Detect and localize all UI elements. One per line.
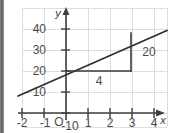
graph-figure: 40 30 20 10 -10 -2 -1 1 2 3 4 O y x 4 20: [0, 0, 169, 133]
x-axis-label: x: [159, 114, 166, 126]
x-tick-label-3: 3: [129, 116, 136, 130]
x-tick-label-minus-1: -1: [40, 116, 51, 130]
run-annotation-label: 4: [96, 74, 103, 88]
origin-label: O: [54, 115, 63, 129]
y-axis-label: y: [54, 7, 62, 19]
y-tick-label-20: 20: [33, 64, 47, 78]
rise-annotation-label: 20: [142, 45, 156, 59]
x-tick-label-2: 2: [107, 116, 114, 130]
x-tick-label-4: 4: [151, 116, 158, 130]
graph-paper: 40 30 20 10 -10 -2 -1 1 2 3 4 O y x 4 20: [4, 0, 169, 133]
coordinate-plane-svg: 40 30 20 10 -10 -2 -1 1 2 3 4 O y x 4 20: [4, 0, 169, 133]
y-tick-label-minus-10: -10: [61, 119, 79, 133]
y-tick-label-40: 40: [33, 22, 47, 36]
y-tick-label-10: 10: [33, 85, 47, 99]
x-tick-label-minus-2: -2: [17, 116, 28, 130]
y-tick-label-30: 30: [33, 43, 47, 57]
x-tick-label-1: 1: [85, 116, 92, 130]
slope-triangle: [67, 33, 131, 71]
y-axis: [61, 7, 70, 120]
